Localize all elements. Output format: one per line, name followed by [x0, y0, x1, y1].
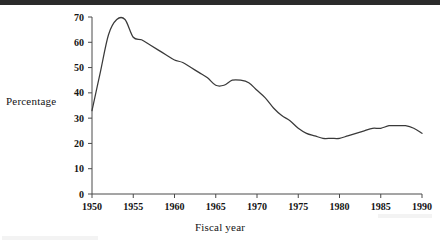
svg-text:1955: 1955 [123, 201, 143, 212]
svg-text:1990: 1990 [412, 201, 432, 212]
x-axis-ticks: 195019551960196519701975198019851990 [82, 194, 432, 212]
svg-text:10: 10 [74, 163, 84, 174]
svg-text:30: 30 [74, 113, 84, 124]
svg-text:1970: 1970 [247, 201, 267, 212]
svg-text:60: 60 [74, 37, 84, 48]
svg-text:1960: 1960 [165, 201, 185, 212]
svg-text:0: 0 [79, 189, 84, 200]
line-chart-figure: Percentage Fiscal year 010203040506070 1… [0, 0, 440, 244]
y-axis-ticks: 010203040506070 [74, 12, 92, 200]
svg-text:20: 20 [74, 138, 84, 149]
svg-text:50: 50 [74, 62, 84, 73]
plot-area: 010203040506070 195019551960196519701975… [0, 0, 440, 244]
data-series-line [92, 17, 422, 138]
svg-text:1980: 1980 [330, 201, 350, 212]
svg-text:1975: 1975 [288, 201, 308, 212]
svg-text:1965: 1965 [206, 201, 226, 212]
svg-text:70: 70 [74, 12, 84, 23]
svg-text:40: 40 [74, 87, 84, 98]
svg-text:1985: 1985 [371, 201, 391, 212]
svg-text:1950: 1950 [82, 201, 102, 212]
